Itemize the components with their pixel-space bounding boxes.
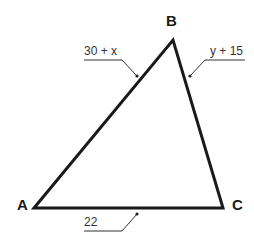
- vertex-b-label: B: [166, 12, 177, 29]
- side-bc-label-leader: [188, 60, 245, 78]
- side-ab-label: 30 + x: [84, 44, 117, 58]
- side-ac-label: 22: [84, 215, 98, 229]
- triangle-abc: [34, 40, 223, 208]
- vertex-a-label: A: [17, 196, 28, 213]
- side-ab-label-leader: [84, 60, 139, 78]
- vertex-c-label: C: [232, 196, 243, 213]
- diagram-svg: 30 + x y + 15 22 B A C: [0, 0, 254, 240]
- triangle-diagram: 30 + x y + 15 22 B A C: [0, 0, 254, 240]
- side-bc-label: y + 15: [210, 44, 243, 58]
